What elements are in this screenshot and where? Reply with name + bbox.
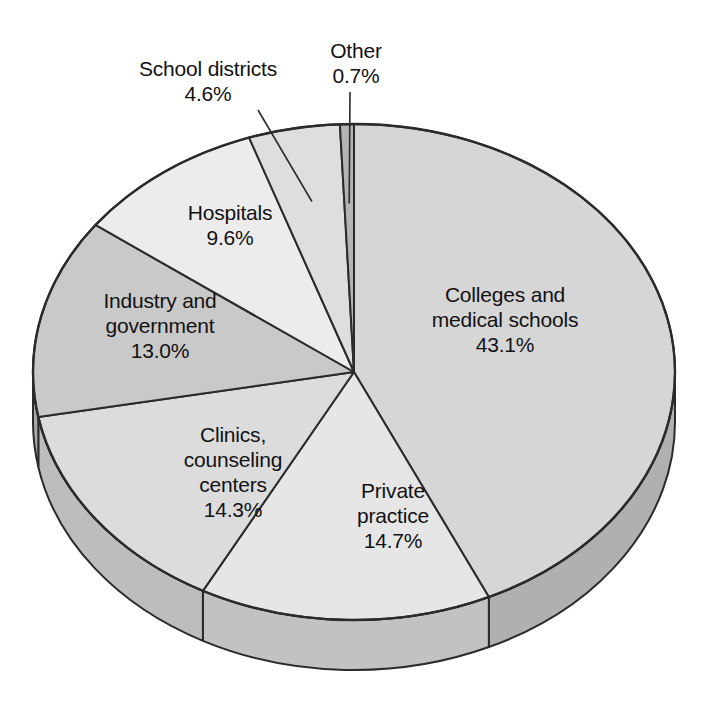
callout-label-other: Other 0.7% — [298, 38, 414, 88]
callout-label-school-districts: School districts 4.6% — [100, 56, 316, 106]
pie-top-faces — [33, 124, 675, 620]
pie-chart: Colleges and medical schools 43.1% Priva… — [0, 0, 702, 702]
leader-other — [349, 92, 350, 203]
